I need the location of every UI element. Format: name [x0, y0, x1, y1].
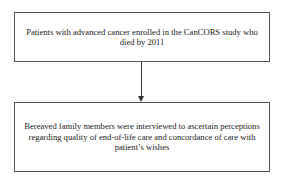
connector-line [141, 62, 142, 97]
flow-box-text: Patients with advanced cancer enrolled i… [21, 27, 263, 48]
flow-box-patients: Patients with advanced cancer enrolled i… [14, 12, 270, 62]
flow-box-text: Bereaved family members were interviewed… [21, 121, 263, 153]
flow-box-interviews: Bereaved family members were interviewed… [14, 102, 270, 172]
